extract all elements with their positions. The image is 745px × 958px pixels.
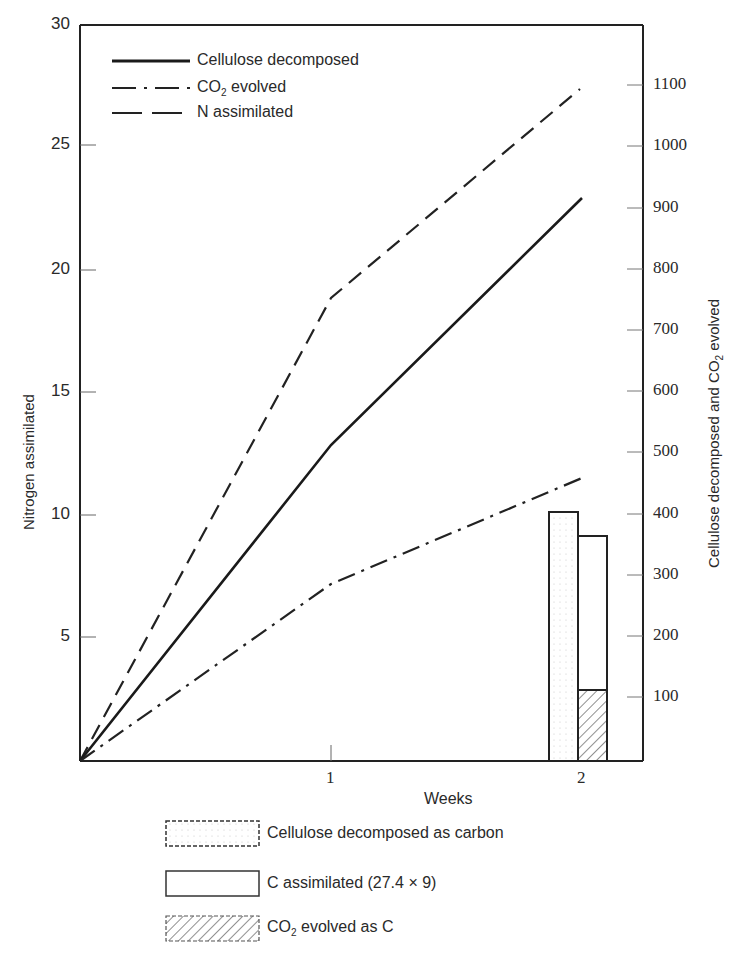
series-cellulose-decomposed <box>80 198 582 761</box>
right-tick-900: 900 <box>653 197 679 217</box>
box-legend-label-c-assimilated: C assimilated (27.4 × 9) <box>267 874 436 892</box>
legend-co2-suffix: evolved <box>227 78 287 95</box>
x-tick-1: 1 <box>326 768 335 788</box>
bar-group-week-2 <box>549 512 607 761</box>
legend-label-co2: CO2 evolved <box>197 78 286 98</box>
legend-co2-prefix: CO <box>197 78 221 95</box>
right-tick-700: 700 <box>653 319 679 339</box>
right-tick-300: 300 <box>653 564 679 584</box>
right-tick-1000: 1000 <box>653 135 687 155</box>
y-axis-right-label-sub: 2 <box>714 355 725 361</box>
legend-label-cellulose: Cellulose decomposed <box>197 51 359 69</box>
right-tick-200: 200 <box>653 625 679 645</box>
box-legend-co2-suffix: evolved as C <box>297 918 394 935</box>
right-axis-ticks <box>627 85 643 697</box>
right-tick-400: 400 <box>653 503 679 523</box>
right-tick-1100: 1100 <box>653 74 686 94</box>
box-legend-samples <box>166 821 259 941</box>
y-axis-right-label: Cellulose decomposed and CO2 evolved <box>705 299 725 568</box>
legend-box-dotted <box>166 821 259 846</box>
x-axis-label: Weeks <box>424 790 473 808</box>
series-n-assimilated <box>80 89 580 761</box>
y-axis-right-label-suffix: evolved <box>705 299 722 355</box>
legend-box-hatched <box>166 916 259 941</box>
y-axis-right-label-prefix: Cellulose decomposed and CO <box>705 360 722 568</box>
box-legend-label-cellulose-carbon: Cellulose decomposed as carbon <box>267 824 504 842</box>
bar-co2-evolved-as-c <box>578 690 607 761</box>
box-legend-label-co2-as-c: CO2 evolved as C <box>267 918 394 938</box>
left-tick-5: 5 <box>30 626 70 646</box>
x-tick-2: 2 <box>577 768 586 788</box>
x-axis-ticks <box>331 745 582 761</box>
line-legend-samples <box>112 61 190 113</box>
bar-cellulose-as-carbon <box>549 512 578 761</box>
legend-box-empty <box>166 871 259 896</box>
box-legend-co2-prefix: CO <box>267 918 291 935</box>
right-tick-100: 100 <box>653 686 679 706</box>
left-tick-25: 25 <box>30 134 70 154</box>
right-tick-500: 500 <box>653 441 679 461</box>
left-axis-ticks <box>80 145 96 637</box>
chart-canvas <box>0 0 745 958</box>
series-co2-evolved <box>80 478 582 761</box>
legend-label-n-assimilated: N assimilated <box>197 103 293 121</box>
right-tick-800: 800 <box>653 258 679 278</box>
y-axis-left-label: Nitrogen assimilated <box>20 394 37 530</box>
right-tick-600: 600 <box>653 380 679 400</box>
left-tick-20: 20 <box>30 259 70 279</box>
left-tick-30: 30 <box>30 14 70 34</box>
